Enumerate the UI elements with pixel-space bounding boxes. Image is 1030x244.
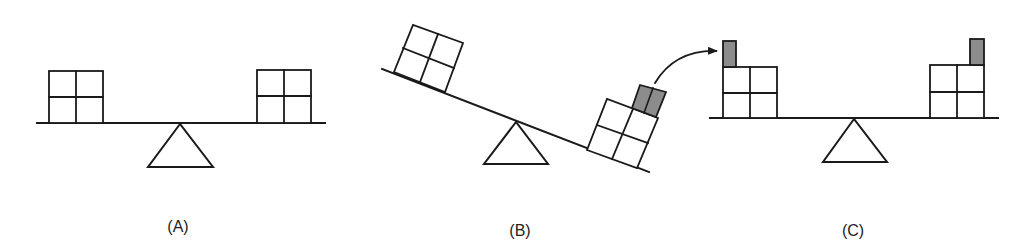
fulcrum-triangle: [148, 124, 213, 167]
panel-label-c: (C): [842, 222, 864, 239]
panel-c: (C): [710, 39, 998, 239]
left-block-stack: [49, 71, 103, 123]
fulcrum-triangle: [823, 119, 887, 162]
panel-label-a: (A): [167, 218, 188, 235]
right-block-stack: [930, 39, 984, 118]
panel-label-b: (B): [509, 222, 530, 239]
left-block-stack: [723, 41, 777, 118]
panel-b: (B): [382, 25, 716, 239]
transfer-arrow: [655, 51, 716, 83]
left-block-stack: [394, 25, 463, 92]
seesaw-diagram: (A) (B): [0, 0, 1030, 244]
gray-half-piece: [723, 41, 736, 67]
panel-a: (A): [37, 70, 325, 235]
right-block-stack: [257, 70, 311, 123]
gray-half-piece: [970, 39, 984, 65]
